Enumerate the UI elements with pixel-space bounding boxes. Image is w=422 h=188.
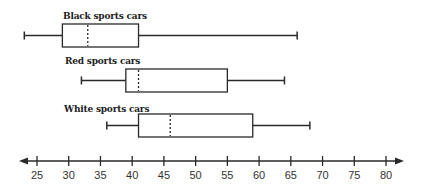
iqr-box bbox=[139, 114, 253, 137]
tick-label: 35 bbox=[94, 169, 106, 181]
tick-label: 65 bbox=[285, 169, 297, 181]
box-plot-white-sports-cars: White sports cars bbox=[63, 104, 310, 137]
tick-label: 70 bbox=[316, 169, 328, 181]
tick-label: 75 bbox=[348, 169, 360, 181]
box-plots: Black sports carsRed sports carsWhite sp… bbox=[24, 11, 310, 137]
right-arrow-icon bbox=[395, 158, 404, 165]
tick-label: 80 bbox=[380, 169, 392, 181]
number-line-axis: 253035404550556065707580 bbox=[19, 156, 404, 181]
tick-label: 45 bbox=[158, 169, 170, 181]
box-plot-red-sports-cars: Red sports cars bbox=[65, 56, 284, 92]
tick-label: 30 bbox=[63, 169, 75, 181]
tick-label: 55 bbox=[221, 169, 233, 181]
iqr-box bbox=[62, 24, 138, 47]
tick-label: 60 bbox=[253, 169, 265, 181]
box-plot-chart: Black sports carsRed sports carsWhite sp… bbox=[0, 0, 422, 188]
series-label: Red sports cars bbox=[65, 56, 140, 66]
left-arrow-icon bbox=[19, 158, 28, 165]
box-plot-black-sports-cars: Black sports cars bbox=[24, 11, 297, 47]
series-label: Black sports cars bbox=[63, 11, 147, 21]
series-label: White sports cars bbox=[63, 104, 149, 114]
iqr-box bbox=[126, 69, 228, 92]
tick-label: 50 bbox=[190, 169, 202, 181]
tick-label: 40 bbox=[126, 169, 138, 181]
tick-label: 25 bbox=[31, 169, 43, 181]
